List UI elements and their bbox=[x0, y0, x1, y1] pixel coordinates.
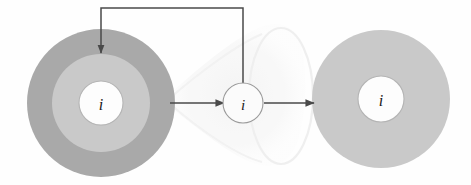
left-node-label: i bbox=[99, 96, 103, 113]
diagram-svg: i i i bbox=[0, 0, 471, 185]
right-node-label: i bbox=[379, 92, 383, 109]
right-filled-node[interactable]: i bbox=[312, 30, 450, 168]
middle-node-label: i bbox=[241, 97, 245, 113]
diagram-canvas: i i i bbox=[0, 0, 471, 185]
middle-small-node[interactable]: i bbox=[223, 83, 263, 123]
